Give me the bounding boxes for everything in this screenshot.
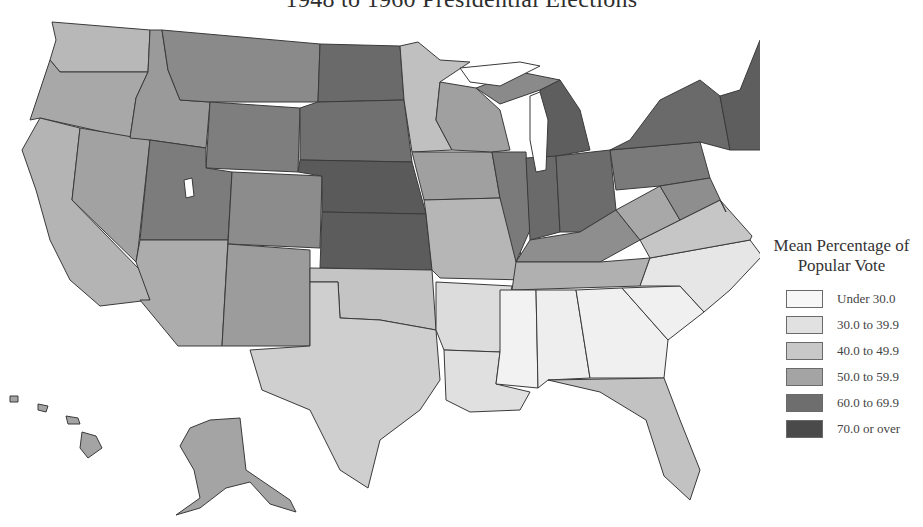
region-washington: [50, 22, 150, 72]
region-hawaii-big: [80, 432, 102, 458]
legend-swatch: [786, 316, 823, 334]
region-hawaii-kauai: [10, 396, 18, 402]
legend-label: Under 30.0: [837, 291, 896, 307]
legend-label: 40.0 to 49.9: [837, 343, 899, 359]
legend-swatch: [786, 368, 823, 386]
legend-label: 50.0 to 59.9: [837, 369, 899, 385]
legend-title-line1: Mean Percentage of: [760, 236, 923, 256]
region-iowa: [412, 152, 500, 200]
region-florida: [548, 378, 700, 500]
legend-label: 30.0 to 39.9: [837, 317, 899, 333]
region-alaska: [176, 418, 296, 515]
legend-item: 40.0 to 49.9: [786, 338, 923, 364]
legend-swatch: [786, 420, 823, 438]
legend-item: 50.0 to 59.9: [786, 364, 923, 390]
legend-swatch: [786, 290, 823, 308]
legend-item: 30.0 to 39.9: [786, 312, 923, 338]
region-kansas: [320, 212, 432, 270]
region-hawaii-maui: [66, 416, 80, 424]
legend-list: Under 30.0 30.0 to 39.9 40.0 to 49.9 50.…: [760, 286, 923, 442]
legend-item: 70.0 or over: [786, 416, 923, 442]
legend-swatch: [786, 394, 823, 412]
region-mississippi: [496, 290, 538, 388]
choropleth-map: [0, 0, 760, 527]
region-wyoming: [206, 102, 300, 172]
region-arizona: [136, 240, 228, 346]
region-colorado: [228, 172, 322, 248]
region-montana: [162, 30, 320, 102]
legend-item: 60.0 to 69.9: [786, 390, 923, 416]
legend-label: 70.0 or over: [837, 421, 900, 437]
legend-swatch: [786, 342, 823, 360]
map-legend: Mean Percentage of Popular Vote Under 30…: [760, 236, 923, 442]
legend-item: Under 30.0: [786, 286, 923, 312]
legend-title-line2: Popular Vote: [760, 256, 923, 276]
region-new-mexico: [222, 244, 310, 346]
region-tennessee: [512, 258, 650, 290]
great-salt-lake: [184, 178, 194, 198]
legend-title: Mean Percentage of Popular Vote: [760, 236, 923, 276]
legend-label: 60.0 to 69.9: [837, 395, 899, 411]
region-south-dakota: [300, 100, 412, 162]
region-north-dakota: [318, 44, 404, 102]
region-new-york: [610, 80, 730, 150]
region-hawaii-oahu: [38, 404, 48, 412]
